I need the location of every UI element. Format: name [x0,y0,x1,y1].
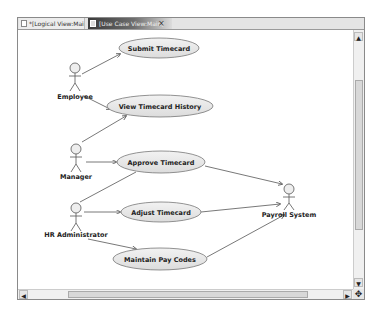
horizontal-scrollbar[interactable]: ◀ ▶ [18,289,353,299]
use-case-approve-timecard[interactable]: Approve Timecard [117,151,205,173]
svg-text:Submit Timecard: Submit Timecard [128,45,191,53]
use-case-view-timecard-history[interactable]: View Timecard History [107,95,213,117]
tab-label: [Use Case View:Main] [99,20,164,27]
pan-navigator-icon[interactable]: ✥ [353,289,364,299]
horizontal-scroll-thumb[interactable] [68,291,308,298]
svg-text:Employee: Employee [57,93,93,101]
actor-icon [71,144,81,154]
diagram-editor-window: *[Logical View:Main] [Use Case View:Main… [17,17,365,300]
actor-employee[interactable]: Employee [57,63,93,101]
actor-payroll-system[interactable]: Payroll System [262,184,317,219]
use-case-submit-timecard[interactable]: Submit Timecard [119,38,199,58]
assoc-hradmin-maintain [88,239,136,249]
svg-text:View Timecard History: View Timecard History [119,103,202,111]
tab-label: *[Logical View:Main] [29,20,85,27]
use-case-maintain-pay-codes[interactable]: Maintain Pay Codes [113,248,207,270]
scroll-right-button[interactable]: ▶ [343,290,352,299]
assoc-employee-submit [82,54,120,74]
diagram-icon [90,20,96,27]
actor-hr-administrator[interactable]: HR Administrator [44,203,108,239]
use-case-adjust-timecard[interactable]: Adjust Timecard [121,202,201,222]
assoc-manager-view-history [82,116,126,142]
vertical-scroll-thumb[interactable] [355,80,363,230]
svg-text:Adjust Timecard: Adjust Timecard [131,209,191,217]
close-tab-icon[interactable]: × [158,18,165,29]
scroll-left-button[interactable]: ◀ [19,290,28,299]
actor-icon [284,184,294,194]
diagram-canvas[interactable]: Submit Timecard View Timecard History Ap… [18,30,353,289]
svg-text:Payroll System: Payroll System [262,211,317,219]
svg-text:Approve Timecard: Approve Timecard [128,159,195,167]
actor-icon [71,203,81,213]
assoc-maintain-payroll [207,215,284,257]
svg-text:HR Administrator: HR Administrator [44,231,108,239]
diagram-icon [21,20,27,27]
scroll-up-button[interactable]: ▲ [354,32,363,41]
actor-icon [70,63,80,73]
svg-text:Maintain Pay Codes: Maintain Pay Codes [124,256,196,264]
scroll-down-button[interactable]: ▼ [354,278,363,287]
vertical-scrollbar[interactable]: ▲ ▼ [353,30,364,289]
tab-logical-view-main[interactable]: *[Logical View:Main] [19,18,85,29]
assoc-approve-payroll [205,166,282,184]
svg-text:Manager: Manager [60,173,93,181]
editor-tab-bar: *[Logical View:Main] [Use Case View:Main… [18,18,364,30]
actor-manager[interactable]: Manager [60,144,93,181]
